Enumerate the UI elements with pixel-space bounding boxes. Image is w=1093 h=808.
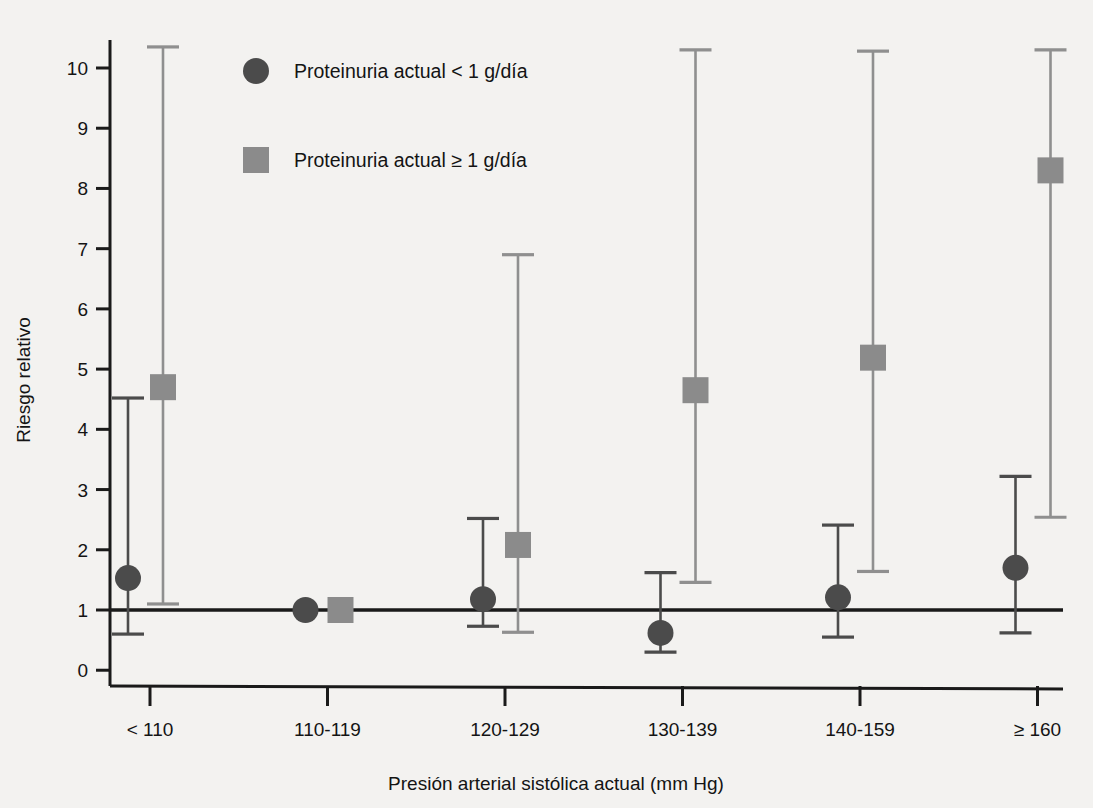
data-point-group xyxy=(293,597,319,623)
y-axis-tick-label: 6 xyxy=(77,299,88,320)
data-marker-square xyxy=(683,377,709,403)
data-series-group xyxy=(112,47,1067,652)
x-axis-tick-label: 110-119 xyxy=(294,719,361,740)
data-marker-circle xyxy=(1003,555,1029,581)
data-marker-square xyxy=(860,345,886,371)
x-axis-tick-label: < 110 xyxy=(127,719,174,740)
data-marker-circle xyxy=(115,565,141,591)
y-axis-tick-label: 10 xyxy=(67,58,88,79)
y-axis-tick-label: 0 xyxy=(77,660,88,681)
y-axis-tick-label: 3 xyxy=(77,480,88,501)
y-axis-tick-label: 1 xyxy=(77,600,88,621)
legend-marker-circle xyxy=(243,58,269,84)
legend-item-label: Proteinuria actual < 1 g/día xyxy=(294,60,528,82)
legend-item-label: Proteinuria actual ≥ 1 g/día xyxy=(294,149,527,171)
data-marker-circle xyxy=(825,584,851,610)
y-axis-tick-label: 8 xyxy=(77,178,88,199)
y-axis-title: Riesgo relativo xyxy=(13,317,34,443)
data-point-group xyxy=(857,51,889,571)
data-marker-square xyxy=(505,532,531,558)
x-axis: < 110110-119120-129130-139140-159≥ 160 xyxy=(110,686,1063,740)
data-point-group xyxy=(147,47,179,604)
data-marker-square xyxy=(328,597,354,623)
data-point-group xyxy=(680,50,712,582)
data-point-group xyxy=(645,573,677,652)
y-axis-tick-label: 5 xyxy=(77,359,88,380)
x-axis-tick-label: 140-159 xyxy=(825,719,895,740)
y-axis-tick-label: 7 xyxy=(77,239,88,260)
data-point-group xyxy=(1035,50,1067,517)
legend-item: Proteinuria actual < 1 g/día xyxy=(243,58,528,84)
x-axis-tick-label: ≥ 160 xyxy=(1014,719,1061,740)
data-marker-square xyxy=(1038,157,1064,183)
x-axis-title: Presión arterial sistólica actual (mm Hg… xyxy=(388,773,724,794)
x-axis-tick-label: 130-139 xyxy=(648,719,718,740)
relative-risk-scatter-chart: 012345678910 < 110110-119120-129130-1391… xyxy=(0,0,1093,808)
legend: Proteinuria actual < 1 g/díaProteinuria … xyxy=(243,58,528,173)
x-axis-tick-label: 120-129 xyxy=(470,719,540,740)
data-point-group xyxy=(822,525,854,637)
data-point-group xyxy=(112,398,144,634)
y-axis: 012345678910 xyxy=(67,40,110,686)
data-marker-circle xyxy=(470,586,496,612)
y-axis-tick-label: 2 xyxy=(77,540,88,561)
chart-canvas: 012345678910 < 110110-119120-129130-1391… xyxy=(0,0,1093,808)
y-axis-tick-label: 9 xyxy=(77,118,88,139)
data-marker-square xyxy=(150,374,176,400)
data-marker-circle xyxy=(648,620,674,646)
data-point-group xyxy=(502,255,534,633)
data-point-group xyxy=(328,597,354,623)
x-axis-line xyxy=(110,686,1063,689)
legend-marker-square xyxy=(243,147,269,173)
y-axis-tick-label: 4 xyxy=(77,419,88,440)
legend-item: Proteinuria actual ≥ 1 g/día xyxy=(243,147,527,173)
data-marker-circle xyxy=(293,597,319,623)
